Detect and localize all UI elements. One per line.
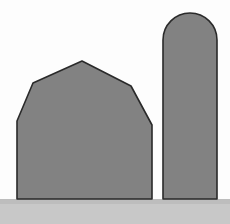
scene-canvas: Barn and Silo Silhouette Grayscale silho… bbox=[0, 0, 230, 224]
illustration-svg bbox=[0, 0, 230, 224]
silo-shape bbox=[163, 13, 217, 199]
